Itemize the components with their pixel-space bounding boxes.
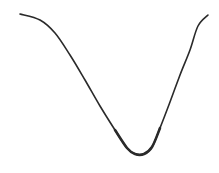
- curve-bottom-emphasis: [115, 128, 160, 155]
- line-chart: [0, 0, 219, 173]
- curve-line: [20, 14, 208, 155]
- plot-area: [0, 0, 219, 173]
